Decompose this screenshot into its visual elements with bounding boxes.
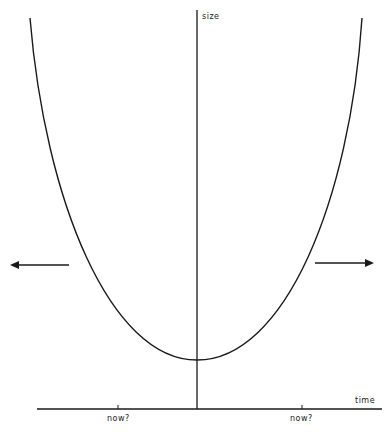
tick-label-left: now?	[107, 414, 130, 423]
y-axis-label: size	[202, 12, 220, 21]
x-axis-label: time	[355, 396, 375, 405]
right-arrow-icon	[315, 259, 374, 267]
tick-label-right: now?	[290, 414, 313, 423]
u-curve	[30, 18, 362, 360]
left-arrow-icon	[10, 261, 69, 269]
diagram-canvas	[0, 0, 388, 435]
